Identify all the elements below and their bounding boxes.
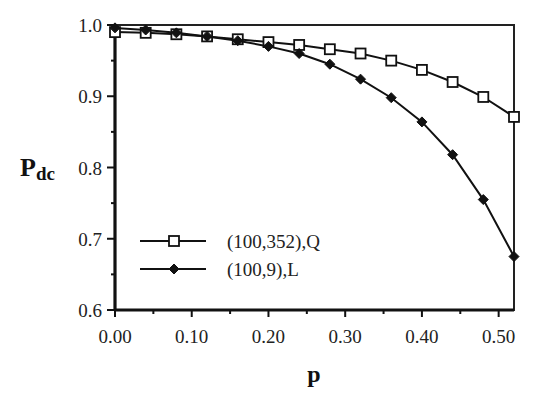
y-axis-title-main: P xyxy=(20,153,36,182)
square-marker xyxy=(356,49,366,59)
diamond-marker xyxy=(356,74,366,84)
series-layer xyxy=(110,23,519,262)
legend-item: (100,352),Q xyxy=(140,231,320,253)
square-marker xyxy=(478,92,488,102)
y-tick-label: 1.0 xyxy=(78,15,102,36)
series-line xyxy=(115,32,514,117)
y-tick-label: 0.6 xyxy=(78,300,102,321)
diamond-marker xyxy=(509,252,519,262)
square-marker xyxy=(169,236,179,246)
x-tick-label: 0.50 xyxy=(482,326,515,347)
x-axis-title: p xyxy=(307,361,320,387)
square-marker xyxy=(509,112,519,122)
y-tick-label: 0.8 xyxy=(78,158,102,179)
y-tick-label: 0.9 xyxy=(78,86,102,107)
legend-label: (100,9),L xyxy=(227,259,299,281)
y-tick-label: 0.7 xyxy=(78,229,102,250)
y-axis-title: Pdc xyxy=(20,153,55,184)
x-axis: 0.000.100.200.300.400.50 xyxy=(98,310,515,347)
series-line xyxy=(115,28,514,257)
series-q xyxy=(110,27,519,122)
legend-item: (100,9),L xyxy=(140,259,299,281)
diamond-marker xyxy=(169,264,179,274)
x-tick-label: 0.00 xyxy=(98,326,131,347)
y-axis: 0.60.70.80.91.0 xyxy=(78,15,115,321)
x-tick-label: 0.40 xyxy=(405,326,438,347)
x-tick-label: 0.10 xyxy=(175,326,208,347)
square-marker xyxy=(325,44,335,54)
diamond-marker xyxy=(325,59,335,69)
x-tick-label: 0.20 xyxy=(252,326,285,347)
square-marker xyxy=(386,56,396,66)
legend: (100,352),Q(100,9),L xyxy=(140,231,320,281)
series-l xyxy=(110,23,519,262)
square-marker xyxy=(448,77,458,87)
square-marker xyxy=(417,65,427,75)
x-tick-label: 0.30 xyxy=(329,326,362,347)
legend-label: (100,352),Q xyxy=(227,231,320,253)
line-chart: 0.000.100.200.300.400.50 0.60.70.80.91.0… xyxy=(0,0,542,399)
y-axis-title-sub: dc xyxy=(36,163,55,184)
